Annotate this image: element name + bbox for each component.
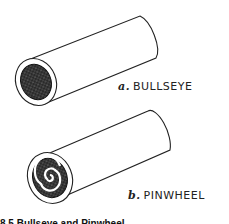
label-letter: b. xyxy=(128,189,141,202)
label-bullseye: a.BULLSEYE xyxy=(118,80,192,93)
caption-text: 8.5 Bullseye and Pinwheel xyxy=(0,218,229,224)
bullseye-roll xyxy=(8,16,157,112)
figure-caption: 8.5 Bullseye and Pinwheel xyxy=(0,218,229,224)
label-name: BULLSEYE xyxy=(133,80,192,93)
label-pinwheel: b.PINWHEEL xyxy=(128,189,205,202)
roll-illustration: a.BULLSEYE b.PINWHEEL 8.5 Bullseye and P… xyxy=(0,0,229,224)
label-letter: a. xyxy=(118,80,130,93)
label-name: PINWHEEL xyxy=(144,189,205,202)
